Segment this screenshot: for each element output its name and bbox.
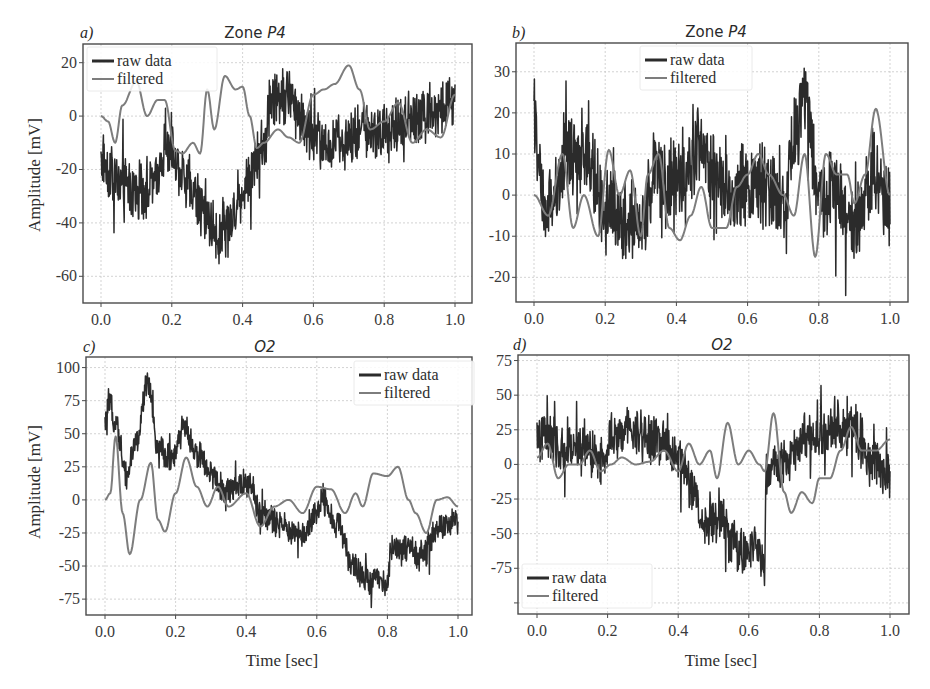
x-tick-label: 1.0 <box>445 311 465 328</box>
x-tick-label: 0.2 <box>595 310 615 327</box>
y-tick-label: 0 <box>72 491 80 508</box>
legend-label: filtered <box>117 70 163 87</box>
y-tick-label: 0 <box>502 186 510 203</box>
x-tick-label: 0.0 <box>91 311 111 328</box>
x-tick-label: 0.6 <box>739 622 759 639</box>
y-axis-label: Amplitude [mV] <box>25 118 44 232</box>
legend: raw datafiltered <box>522 564 652 608</box>
panel-c: c) O2 Amplitude [mV] Time [sec] 0.00.20.… <box>25 338 474 670</box>
legend-label: filtered <box>670 69 716 86</box>
x-tick-label: 0.6 <box>307 623 327 640</box>
y-tick-label: 75 <box>496 352 512 369</box>
y-tick-label: 20 <box>61 54 77 71</box>
y-tick-label: 75 <box>64 392 80 409</box>
panel-letter: c) <box>83 338 95 356</box>
y-tick-label: -75 <box>491 559 512 576</box>
y-tick-label: -25 <box>59 524 80 541</box>
legend-label: raw data <box>552 569 607 586</box>
panel-title: O2 <box>711 336 732 354</box>
x-tick-label: 0.4 <box>666 310 686 327</box>
y-tick-label: 30 <box>494 63 510 80</box>
panel-b: b) Zone P4 0.00.20.40.60.81.03020100-10-… <box>489 23 908 327</box>
x-tick-label: 0.8 <box>377 623 397 640</box>
y-tick-label: 25 <box>64 458 80 475</box>
y-tick-label: -10 <box>489 227 510 244</box>
plot-area <box>537 386 890 586</box>
series-raw-data <box>534 68 890 295</box>
y-tick-label: 100 <box>56 359 80 376</box>
plot-area <box>105 373 458 607</box>
panel-title: Zone P4 <box>685 23 747 41</box>
panel-title: Zone P4 <box>224 24 286 42</box>
x-tick-label: 0.6 <box>303 311 323 328</box>
panel-letter: a) <box>80 24 93 42</box>
figure: a) Zone P4 Amplitude [mV] 0.00.20.40.60.… <box>0 0 930 689</box>
y-tick-label: -25 <box>491 490 512 507</box>
y-tick-label: -20 <box>56 160 77 177</box>
panel-d: d) O2 Time [sec] 0.00.20.40.60.81.075502… <box>491 336 909 670</box>
x-tick-label: 0.2 <box>162 311 182 328</box>
x-tick-label: 0.0 <box>95 623 115 640</box>
x-tick-label: 0.6 <box>738 310 758 327</box>
legend-label: filtered <box>552 587 598 604</box>
series-raw-data <box>101 69 455 264</box>
x-tick-label: 0.2 <box>166 623 186 640</box>
series-raw-data <box>537 386 890 586</box>
x-tick-label: 0.2 <box>598 622 618 639</box>
y-tick-label: -50 <box>59 557 80 574</box>
panel-letter: d) <box>513 336 526 354</box>
panel-letter: b) <box>512 24 525 42</box>
panel-a: a) Zone P4 Amplitude [mV] 0.00.20.40.60.… <box>25 24 472 328</box>
x-tick-label: 1.0 <box>880 622 900 639</box>
x-tick-label: 0.8 <box>374 311 394 328</box>
y-tick-label: 0 <box>69 107 77 124</box>
y-tick-label: -50 <box>491 525 512 542</box>
plot-area <box>534 68 890 295</box>
x-tick-label: 0.8 <box>809 622 829 639</box>
x-tick-label: 0.4 <box>668 622 688 639</box>
x-tick-label: 1.0 <box>880 310 900 327</box>
y-tick-label: 50 <box>64 425 80 442</box>
x-axis-label: Time [sec] <box>685 651 758 670</box>
legend: raw datafiltered <box>87 47 217 91</box>
y-tick-label: 0 <box>504 455 512 472</box>
y-tick-label: -40 <box>56 214 77 231</box>
x-tick-label: 0.4 <box>236 623 256 640</box>
y-tick-label: -60 <box>56 267 77 284</box>
legend-label: raw data <box>384 366 439 383</box>
legend-label: filtered <box>384 384 430 401</box>
x-tick-label: 1.0 <box>448 623 468 640</box>
legend: raw datafiltered <box>354 361 474 405</box>
legend-label: raw data <box>670 51 725 68</box>
x-tick-label: 0.8 <box>809 310 829 327</box>
legend-label: raw data <box>117 52 172 69</box>
x-axis-label: Time [sec] <box>246 651 319 670</box>
y-tick-label: -20 <box>489 268 510 285</box>
y-axis-label: Amplitude [mV] <box>25 425 44 539</box>
x-tick-label: 0.0 <box>524 310 544 327</box>
x-tick-label: 0.4 <box>233 311 253 328</box>
y-tick-label: 50 <box>496 386 512 403</box>
y-tick-label: -75 <box>59 590 80 607</box>
x-tick-label: 0.0 <box>527 622 547 639</box>
legend: raw datafiltered <box>640 46 752 90</box>
y-tick-label: 25 <box>496 421 512 438</box>
y-tick-label: 20 <box>494 104 510 121</box>
y-tick-label: 10 <box>494 145 510 162</box>
plot-area <box>101 65 455 263</box>
panel-title: O2 <box>254 338 275 356</box>
